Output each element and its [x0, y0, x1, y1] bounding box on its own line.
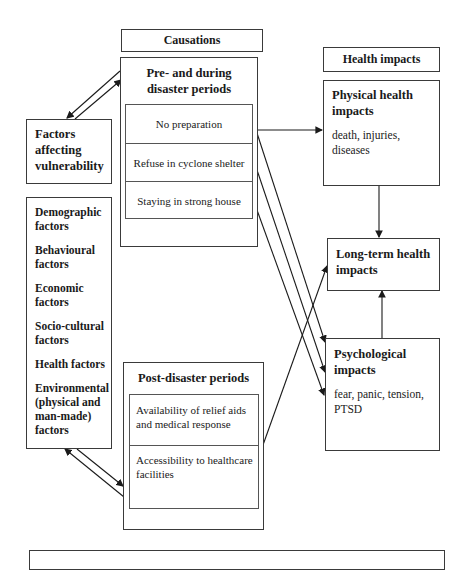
vulnerability-title: Factors affecting vulnerability	[35, 126, 111, 174]
factor-behavioural: Behavioural factors	[35, 243, 111, 271]
physical-health-box: Physical health impacts death, injuries,…	[323, 80, 440, 186]
factor-environmental: Environmental (physical and man-made) fa…	[35, 381, 111, 437]
post-disaster-title: Post-disaster periods	[124, 370, 263, 386]
pre-during-disaster-box: Pre- and during disaster periods No prep…	[120, 57, 258, 247]
vulnerability-factors-box: Demographic factors Behavioural factors …	[26, 197, 112, 449]
arrow-pre-to-vulnerability	[67, 71, 120, 118]
post-items-divider	[130, 445, 258, 446]
factor-demographic: Demographic factors	[35, 205, 111, 233]
causations-header: Causations	[121, 29, 263, 52]
longterm-health-box: Long-term health impacts	[327, 238, 440, 291]
arrow-vulnerability-to-pre	[75, 80, 121, 119]
pre-during-items: No preparation Refuse in cyclone shelter…	[125, 104, 253, 219]
pre-item-refuse-cyclone-shelter: Refuse in cyclone shelter	[126, 143, 252, 182]
causations-header-label: Causations	[164, 33, 221, 47]
factor-socio-cultural: Socio-cultural factors	[35, 319, 111, 347]
arrow-nopreparation-to-psychological	[257, 133, 325, 342]
post-item-healthcare-access: Accessibility to healthcare facilities	[136, 453, 253, 481]
pre-item-strong-house: Staying in strong house	[126, 181, 252, 220]
arrow-stronghouse-to-psychological	[257, 210, 324, 395]
pre-item-no-preparation: No preparation	[126, 105, 252, 143]
pre-during-title: Pre- and during disaster periods	[121, 65, 257, 97]
vulnerability-title-box: Factors affecting vulnerability	[26, 119, 112, 184]
arrow-post-to-factors	[65, 449, 124, 497]
physical-health-title: Physical health impacts	[332, 87, 439, 119]
post-disaster-box: Post-disaster periods Availability of re…	[123, 362, 264, 530]
psychological-title: Psychological impacts	[334, 346, 439, 378]
health-impacts-header: Health impacts	[323, 47, 440, 72]
physical-health-desc: death, injuries, diseases	[332, 128, 439, 158]
arrow-shelter-to-psychological	[257, 170, 325, 372]
post-disaster-items: Availability of relief aids and medical …	[129, 394, 259, 509]
psychological-box: Psychological impacts fear, panic, tensi…	[325, 338, 440, 451]
arrow-post-to-longterm	[263, 266, 327, 445]
longterm-health-title: Long-term health impacts	[336, 246, 439, 278]
arrow-factors-to-post	[77, 449, 123, 486]
legend-box	[29, 550, 445, 570]
post-item-relief-aids: Availability of relief aids and medical …	[136, 403, 246, 431]
psychological-desc: fear, panic, tension, PTSD	[334, 387, 439, 417]
factor-economic: Economic factors	[35, 281, 111, 309]
factor-health: Health factors	[35, 357, 111, 371]
